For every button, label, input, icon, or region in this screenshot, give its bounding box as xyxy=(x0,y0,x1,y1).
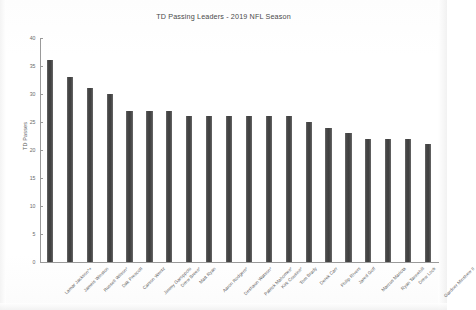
y-tick-5: 5 xyxy=(0,231,40,237)
bar xyxy=(306,122,312,262)
y-tick-label: 10 xyxy=(30,203,40,209)
bar xyxy=(286,116,292,262)
bar xyxy=(266,116,272,262)
y-tick-mark xyxy=(40,178,43,179)
bar xyxy=(87,88,93,262)
chart-title: TD Passing Leaders - 2019 NFL Season xyxy=(0,12,447,21)
bar xyxy=(325,128,331,262)
y-tick-label: 0 xyxy=(33,259,40,265)
scan-edge-bottom xyxy=(0,303,447,310)
y-tick-label: 20 xyxy=(30,147,40,153)
bar xyxy=(126,111,132,262)
bar xyxy=(425,144,431,262)
y-tick-mark xyxy=(40,66,43,67)
y-tick-40: 40 xyxy=(0,35,40,41)
bar xyxy=(47,60,53,262)
y-tick-30: 30 xyxy=(0,91,40,97)
y-tick-mark xyxy=(40,94,43,95)
y-tick-10: 10 xyxy=(0,203,40,209)
x-axis-line xyxy=(40,262,439,263)
y-tick-20: 20 xyxy=(0,147,40,153)
bar xyxy=(107,94,113,262)
bar xyxy=(385,139,391,262)
bar xyxy=(365,139,371,262)
y-tick-label: 30 xyxy=(30,91,40,97)
y-tick-mark xyxy=(40,206,43,207)
x-axis-label: Gardner Minshew II xyxy=(443,266,476,299)
bar xyxy=(226,116,232,262)
scan-edge-right xyxy=(438,0,447,310)
y-tick-label: 35 xyxy=(30,63,40,69)
bar xyxy=(246,116,252,262)
y-tick-0: 0 xyxy=(0,259,40,265)
bar xyxy=(166,111,172,262)
y-tick-label: 5 xyxy=(33,231,40,237)
bar xyxy=(345,133,351,262)
y-tick-mark xyxy=(40,38,43,39)
y-tick-mark xyxy=(40,122,43,123)
bar xyxy=(186,116,192,262)
y-tick-mark xyxy=(40,262,43,263)
bar xyxy=(67,77,73,262)
bar xyxy=(146,111,152,262)
y-tick-mark xyxy=(40,150,43,151)
y-tick-25: 25 xyxy=(0,119,40,125)
y-axis-label: TD Passes xyxy=(22,122,28,150)
y-tick-label: 25 xyxy=(30,119,40,125)
y-tick-mark xyxy=(40,234,43,235)
bar xyxy=(405,139,411,262)
bar xyxy=(206,116,212,262)
y-tick-label: 40 xyxy=(30,35,40,41)
y-tick-15: 15 xyxy=(0,175,40,181)
y-tick-label: 15 xyxy=(30,175,40,181)
y-tick-35: 35 xyxy=(0,63,40,69)
